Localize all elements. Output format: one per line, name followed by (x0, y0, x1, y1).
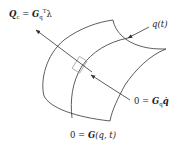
constraint-force-arrow (36, 30, 92, 72)
trajectory-pointer-arrow (128, 27, 149, 38)
qdot-symbol: q̇ (163, 96, 169, 106)
position-constraint-label: 0 = G(q, t) (70, 131, 116, 140)
args-text: (q, t) (95, 130, 116, 140)
trajectory-label: q(t) (152, 20, 168, 29)
trajectory-curve (71, 38, 128, 118)
velocity-constraint-label: 0 = Gqq̇ (134, 97, 169, 108)
velocity-arrow (91, 75, 130, 100)
trajectory-text: q(t) (152, 19, 168, 29)
equals-sign: = (20, 9, 33, 19)
constraint-force-label: Qc = GqTλ (9, 9, 52, 21)
lambda-symbol: λ (47, 9, 52, 19)
zero-equals: 0 = (70, 130, 88, 140)
zero-equals: 0 = (134, 96, 152, 106)
q-subscript: q (39, 14, 43, 20)
